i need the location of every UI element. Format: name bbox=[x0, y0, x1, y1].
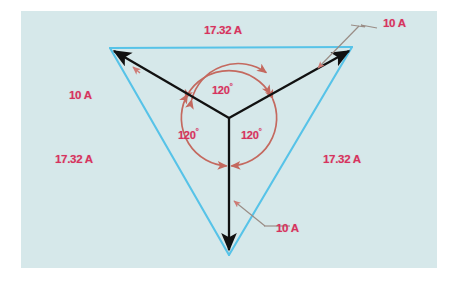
degree-symbol-icon: ° bbox=[258, 126, 261, 136]
triangle-side-bottom-left bbox=[110, 48, 229, 255]
label-line-current-bottom-right: 17.32 A bbox=[323, 153, 361, 165]
label-line-current-top: 17.32 A bbox=[204, 24, 242, 36]
degree-symbol-icon: ° bbox=[229, 81, 232, 91]
phasor-direction-tick-icon bbox=[133, 67, 140, 73]
phasor-diagram-svg bbox=[21, 11, 437, 268]
label-angle-top: 120° bbox=[212, 81, 233, 96]
degree-symbol-icon: ° bbox=[195, 126, 198, 136]
label-phasor-left: 10 A bbox=[69, 89, 92, 101]
label-angle-right: 120° bbox=[241, 126, 262, 141]
label-line-current-bottom-left: 17.32 A bbox=[55, 153, 93, 165]
triangle-side-top bbox=[110, 47, 352, 48]
diagram-panel bbox=[21, 11, 437, 268]
label-angle-left-value: 120 bbox=[178, 129, 195, 141]
label-angle-left: 120° bbox=[178, 126, 199, 141]
label-phasor-top-right: 10 A bbox=[383, 17, 406, 29]
label-angle-top-value: 120 bbox=[212, 84, 229, 96]
line-current-triangle bbox=[110, 47, 352, 255]
figure-root: 17.32 A 10 A 10 A 17.32 A 17.32 A 10 A 1… bbox=[0, 0, 458, 285]
label-angle-right-value: 120 bbox=[241, 129, 258, 141]
label-phasor-bottom: 10 A bbox=[276, 222, 299, 234]
